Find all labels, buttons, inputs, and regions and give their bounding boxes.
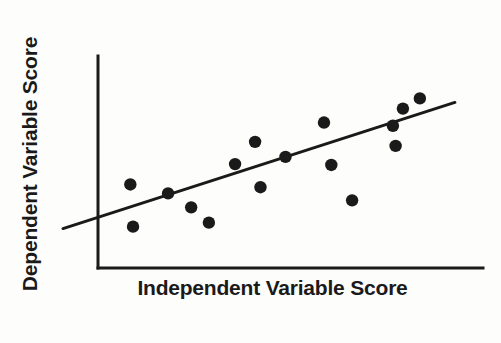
data-point (389, 140, 401, 152)
data-point (185, 201, 197, 213)
data-point (162, 187, 174, 199)
data-point (387, 120, 399, 132)
data-point (318, 116, 330, 128)
data-point (203, 216, 215, 228)
data-point (249, 136, 261, 148)
data-point (279, 151, 291, 163)
data-points (124, 92, 426, 233)
data-point (229, 158, 241, 170)
data-point (127, 220, 139, 232)
data-point (397, 102, 409, 114)
x-axis-label: Independent Variable Score (0, 276, 501, 300)
y-axis-label: Dependent Variable Score (18, 36, 42, 290)
data-point (414, 92, 426, 104)
scatter-plot-figure: Dependent Variable Score Independent Var… (0, 0, 501, 343)
data-point (254, 181, 266, 193)
axes (98, 56, 483, 268)
data-point (346, 194, 358, 206)
data-point (325, 159, 337, 171)
data-point (124, 178, 136, 190)
